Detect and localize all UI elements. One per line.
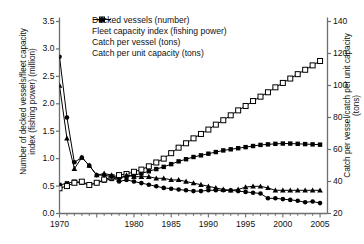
y-axis-left-tick-label: 2.5 xyxy=(30,71,55,81)
y-axis-left-tick-label: 1.0 xyxy=(30,153,55,163)
legend-item: Decked vessels (number) xyxy=(92,14,227,25)
x-axis-tick-label: 1995 xyxy=(229,219,263,229)
y-axis-right-tick-label: 120 xyxy=(333,48,359,58)
chart-legend: Decked vessels (number)Fleet capacity in… xyxy=(92,14,227,58)
y-axis-left-tick-label: 3.0 xyxy=(30,43,55,53)
y-axis-left-tick-label: 2.0 xyxy=(30,98,55,108)
chart-figure: Number of decked vessels/fleet capacity … xyxy=(0,0,364,244)
x-axis-tick-label: 1985 xyxy=(154,219,188,229)
legend-item: Catch per unit capacity (tons) xyxy=(92,47,227,58)
y-axis-left-tick-label: 1.5 xyxy=(30,126,55,136)
legend-item-label: Catch per unit capacity (tons) xyxy=(92,48,204,58)
legend-item-label: Catch per vessel (tons) xyxy=(92,37,180,47)
y-axis-left-tick-label: 3.5 xyxy=(30,16,55,26)
y-axis-right-tick-label: 140 xyxy=(333,16,359,26)
y-axis-left-tick-label: 0.0 xyxy=(30,208,55,218)
x-axis-tick-label: 2000 xyxy=(266,219,300,229)
legend-item: Fleet capacity index (fishing power) xyxy=(92,25,227,36)
legend-item: Catch per vessel (tons) xyxy=(92,36,227,47)
y-axis-right-tick-label: 60 xyxy=(333,144,359,154)
x-axis-tick-label: 1980 xyxy=(117,219,151,229)
x-axis-tick-label: 1990 xyxy=(191,219,225,229)
y-axis-right-tick-label: 80 xyxy=(333,112,359,122)
legend-item-label: Fleet capacity index (fishing power) xyxy=(92,26,227,36)
y-axis-right-tick-label: 100 xyxy=(333,80,359,90)
y-axis-right-tick-label: 40 xyxy=(333,176,359,186)
legend-marker-filled-circle-icon xyxy=(92,14,112,25)
x-axis-tick-label: 2005 xyxy=(303,219,337,229)
x-axis-tick-label: 1970 xyxy=(43,219,77,229)
y-axis-right-tick-label: 20 xyxy=(333,208,359,218)
y-axis-left-tick-label: 0.5 xyxy=(30,181,55,191)
